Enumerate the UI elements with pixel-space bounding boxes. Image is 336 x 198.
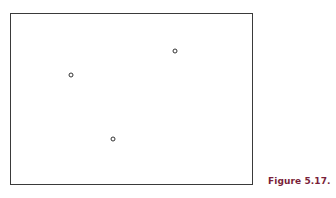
circle-point	[69, 73, 74, 78]
figure-frame	[10, 13, 253, 185]
circle-point	[173, 49, 178, 54]
circle-point	[111, 137, 116, 142]
figure-caption: Figure 5.17.	[268, 176, 331, 186]
